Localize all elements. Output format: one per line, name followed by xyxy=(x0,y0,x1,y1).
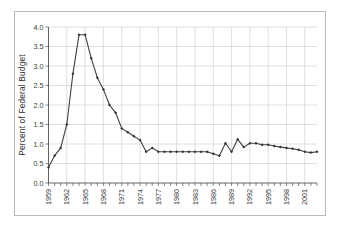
x-tick-label: 1995 xyxy=(264,189,273,205)
x-tick-label: 1968 xyxy=(99,189,108,205)
y-tick-label: 1.0 xyxy=(34,140,44,149)
x-tick-label: 1965 xyxy=(81,189,90,205)
y-axis: 0.00.51.01.52.02.53.03.54.0 xyxy=(34,23,49,188)
x-tick-label: 1992 xyxy=(245,189,254,205)
y-tick-label: 3.5 xyxy=(34,42,44,51)
x-tick-label: 1989 xyxy=(227,189,236,205)
line-chart: 0.00.51.01.52.02.53.03.54.0Percent of Fe… xyxy=(0,0,341,229)
y-axis-title: Percent of Federal Budget xyxy=(17,54,27,156)
y-tick-label: 3.0 xyxy=(34,62,44,71)
x-tick-label: 1983 xyxy=(191,189,200,205)
x-tick-label: 1959 xyxy=(44,189,53,205)
x-axis: 1959196219651968197119741977198019831986… xyxy=(44,183,317,205)
y-tick-label: 2.0 xyxy=(34,101,44,110)
x-tick-label: 1971 xyxy=(117,189,126,205)
x-tick-label: 1980 xyxy=(172,189,181,205)
x-tick-label: 1977 xyxy=(154,189,163,205)
y-tick-label: 2.5 xyxy=(34,81,44,90)
x-tick-label: 1974 xyxy=(136,189,145,205)
y-tick-label: 0.5 xyxy=(34,159,44,168)
x-tick-label: 2001 xyxy=(300,189,309,205)
y-tick-label: 0.0 xyxy=(34,179,44,188)
x-tick-label: 1986 xyxy=(209,189,218,205)
x-tick-label: 1998 xyxy=(282,189,291,205)
x-tick-label: 1962 xyxy=(62,189,71,205)
y-tick-label: 4.0 xyxy=(34,23,44,32)
y-tick-label: 1.5 xyxy=(34,120,44,129)
figure-canvas: 0.00.51.01.52.02.53.03.54.0Percent of Fe… xyxy=(0,0,341,229)
